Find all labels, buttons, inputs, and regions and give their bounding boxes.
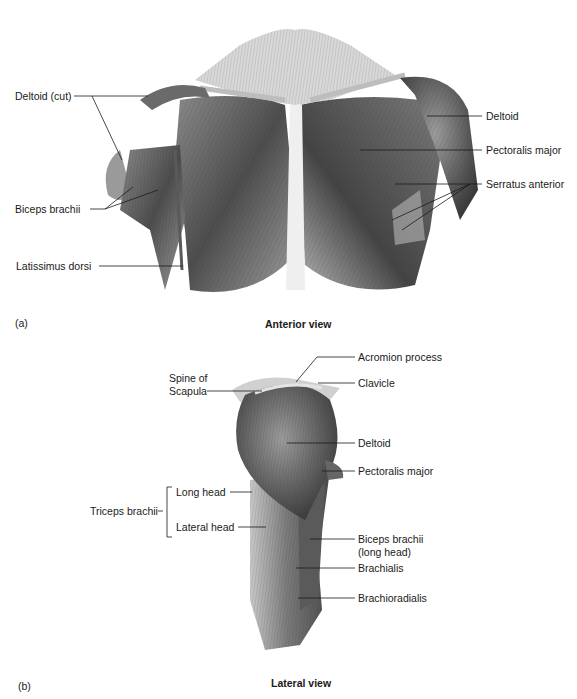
label-brachialis: Brachialis	[358, 562, 404, 574]
anatomy-illustration	[0, 0, 577, 699]
label-biceps-brachii-line2: (long head)	[358, 546, 411, 558]
label-latissimus-dorsi: Latissimus dorsi	[16, 260, 91, 272]
caption-lateral-view: Lateral view	[271, 677, 331, 689]
anterior-chest-drawing	[106, 29, 478, 292]
panel-letter-b: (b)	[18, 680, 31, 692]
label-lateral-head: Lateral head	[176, 521, 234, 533]
label-deltoid-lateral: Deltoid	[358, 437, 391, 449]
label-brachioradialis: Brachioradialis	[358, 592, 427, 604]
label-spine-of-scapula-line2: Scapula	[169, 385, 207, 397]
caption-anterior-view: Anterior view	[265, 318, 332, 330]
label-deltoid-cut: Deltoid (cut)	[15, 90, 72, 102]
label-acromion-process: Acromion process	[358, 351, 442, 363]
label-deltoid-anterior: Deltoid	[486, 110, 519, 122]
panel-letter-a: (a)	[15, 317, 28, 329]
label-clavicle: Clavicle	[358, 377, 395, 389]
label-biceps-brachii-line1: Biceps brachii	[358, 533, 423, 545]
label-spine-of-scapula-line1: Spine of	[169, 372, 208, 384]
lateral-arm-drawing	[232, 378, 343, 650]
label-triceps-brachii: Triceps brachii	[90, 505, 158, 517]
label-biceps-brachii: Biceps brachii	[15, 203, 80, 215]
label-pectoralis-major-lateral: Pectoralis major	[358, 465, 433, 477]
label-serratus-anterior: Serratus anterior	[486, 178, 564, 190]
label-long-head: Long head	[176, 486, 226, 498]
label-pectoralis-major-anterior: Pectoralis major	[486, 144, 561, 156]
